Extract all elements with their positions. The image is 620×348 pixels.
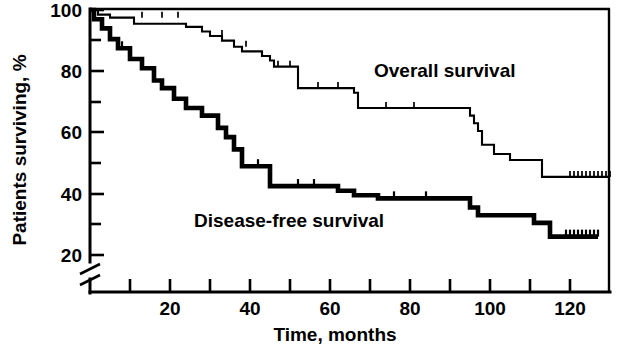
y-axis-ticks bbox=[90, 10, 104, 255]
disease-free-survival-curve bbox=[90, 10, 598, 237]
y-tick-label-60: 60 bbox=[61, 122, 82, 143]
survival-chart-svg: 100 80 60 40 20 20 40 60 80 100 12 bbox=[0, 0, 620, 348]
survival-curves bbox=[90, 10, 610, 237]
x-tick-label-20: 20 bbox=[159, 298, 180, 319]
overall-survival-label: Overall survival bbox=[374, 60, 516, 81]
overall-survival-curve bbox=[90, 10, 610, 177]
disease-free-survival-label: Disease-free survival bbox=[194, 210, 384, 231]
x-axis-title: Time, months bbox=[273, 324, 396, 345]
y-tick-label-20: 20 bbox=[61, 245, 82, 266]
y-tick-label-80: 80 bbox=[61, 61, 82, 82]
y-tick-label-100: 100 bbox=[50, 0, 82, 21]
x-axis-ticks bbox=[130, 279, 570, 292]
disease-free-survival-censor-marks bbox=[122, 41, 598, 236]
y-tick-label-40: 40 bbox=[61, 184, 82, 205]
plot-frame bbox=[80, 9, 610, 293]
x-tick-label-100: 100 bbox=[474, 298, 506, 319]
x-tick-label-120: 120 bbox=[554, 298, 586, 319]
x-tick-label-80: 80 bbox=[399, 298, 420, 319]
x-tick-label-40: 40 bbox=[239, 298, 260, 319]
y-axis-tick-labels: 100 80 60 40 20 bbox=[50, 0, 82, 266]
y-axis-title: Patients surviving, % bbox=[9, 54, 30, 245]
kaplan-meier-figure: 100 80 60 40 20 20 40 60 80 100 12 bbox=[0, 0, 620, 348]
x-axis-tick-labels: 20 40 60 80 100 120 bbox=[159, 298, 585, 319]
x-tick-label-60: 60 bbox=[319, 298, 340, 319]
